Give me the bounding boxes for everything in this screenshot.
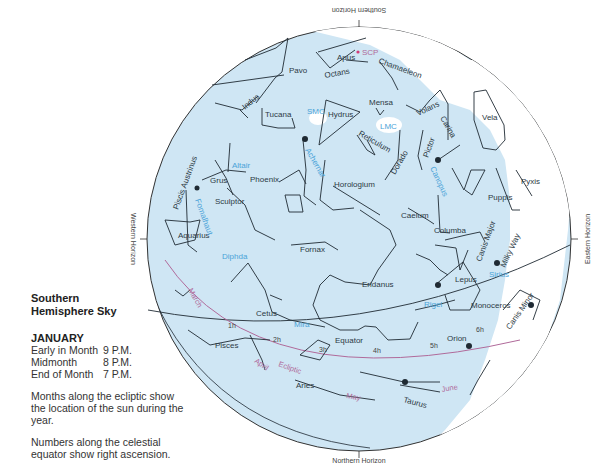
label-monoceros: Monoceros [471,301,511,310]
label-rigel: Rigel [424,300,442,309]
ra-2h: 2h [273,336,281,343]
ra-1h: 1h [228,322,236,329]
eastern-horizon-label: Eastern Horizon [584,214,591,264]
label-orion: Orion [447,334,467,343]
northern-horizon-label: Northern Horizon [332,457,385,464]
scp-marker [356,50,359,53]
label-diphda: Diphda [222,252,248,261]
label-smc: SMC [307,107,325,116]
label-horologium: Horologium [334,180,375,189]
label-fornax: Fornax [300,245,325,254]
label-mensa: Mensa [369,98,394,107]
label-pisces: Pisces [215,341,239,350]
label-tucana: Tucana [265,110,292,119]
label-altair: Altair [232,161,251,170]
label-hydrus: Hydrus [328,110,353,119]
label-pyxis: Pyxis [521,177,540,186]
label-phoenix: Phoenix [250,175,279,184]
label-apus: Apus [337,53,355,62]
label-equator: Equator [335,336,363,345]
western-horizon-label: Western Horizon [130,213,137,265]
label-puppis: Puppis [488,193,512,202]
ra-5h: 5h [430,342,438,349]
label-cetus: Cetus [256,309,277,318]
label-caelum: Caelum [401,211,429,220]
label-lepus: Lepus [455,275,477,284]
label-columba: Columba [434,226,467,235]
ra-4h: 4h [373,347,381,354]
label-eridanus: Eridanus [362,280,394,289]
ra-3h: 3h [319,346,327,353]
ra-6h: 6h [476,326,484,333]
label-vela: Vela [482,113,498,122]
label-sirius: Sirius [489,270,509,279]
label-lmc: LMC [380,122,397,131]
sky-map: Southern Horizon Northern Horizon Easter… [0,0,601,465]
label-sculptor: Sculptor [215,197,245,206]
southern-horizon-label: Southern Horizon [332,7,387,14]
label-scp: SCP [362,48,378,57]
label-grus: Grus [210,176,227,185]
label-pavo: Pavo [289,66,308,75]
label-aries: Aries [296,381,314,390]
label-mira: Mira [294,320,310,329]
